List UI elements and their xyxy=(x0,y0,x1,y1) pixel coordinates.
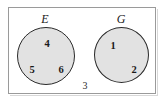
set-circle-e xyxy=(17,27,75,85)
element-outside-sets: 3 xyxy=(78,81,92,91)
element-in-set-g-bottom-right: 2 xyxy=(127,65,141,76)
element-in-set-e-bottom-right: 6 xyxy=(54,65,68,76)
element-in-set-g-top-left: 1 xyxy=(106,41,120,52)
venn-diagram-figure: E G 4 5 6 1 2 3 xyxy=(0,0,165,102)
set-label-e: E xyxy=(36,13,54,25)
element-in-set-e-top: 4 xyxy=(40,39,54,50)
set-label-g: G xyxy=(112,13,130,25)
element-in-set-e-bottom-left: 5 xyxy=(25,65,39,76)
